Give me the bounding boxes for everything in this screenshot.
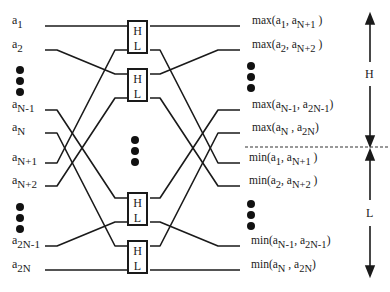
output-label-min-N-1: min(aN-1, a2N-1) <box>251 234 330 246</box>
low-half-label: L <box>366 207 373 219</box>
wire-out-min2 <box>150 98 240 186</box>
output-label-min-N: min(aN , a2N) <box>251 258 316 270</box>
input-label-a1: a1 <box>12 14 23 26</box>
input-label-aN: aN <box>12 121 25 133</box>
wire-out-maxN-1 <box>150 110 240 198</box>
ellipsis-dot <box>131 136 139 144</box>
ellipsis-dot <box>247 62 255 70</box>
ellipsis-dot <box>247 211 255 219</box>
ellipsis-dot <box>247 200 255 208</box>
wire-a2 <box>45 50 127 74</box>
ellipsis-dot <box>16 225 24 233</box>
output-label-max-1: max(a1, aN+1 ) <box>252 14 322 26</box>
ellipsis-dot <box>16 88 24 96</box>
ellipsis-dot <box>131 147 139 155</box>
output-label-min-2: min(a2, aN+2 ) <box>249 174 317 186</box>
input-label-aN+1: aN+1 <box>12 151 37 163</box>
input-label-a2: a2 <box>12 38 23 50</box>
wire-aN <box>45 133 127 246</box>
output-label-max-2: max(a2, aN+2 ) <box>252 38 322 50</box>
comparator-box-4: HL <box>127 240 148 274</box>
high-half-label: H <box>365 68 374 80</box>
comparator-box-1: HL <box>127 20 148 54</box>
comparator-box-2: HL <box>127 68 148 102</box>
ellipsis-dot <box>247 73 255 81</box>
ellipsis-dot <box>16 77 24 85</box>
arrow-up-icon <box>366 150 374 160</box>
wire-a2N-1 <box>45 222 127 246</box>
ellipsis-dot <box>247 222 255 230</box>
ellipsis-dot <box>131 158 139 166</box>
input-label-aN+2: aN+2 <box>12 174 37 186</box>
ellipsis-dot <box>247 84 255 92</box>
input-label-a2N-1: a2N-1 <box>12 234 40 246</box>
arrow-down-icon <box>366 266 374 276</box>
network-wiring <box>0 0 390 292</box>
ellipsis-dot <box>16 214 24 222</box>
ellipsis-dot <box>16 203 24 211</box>
input-label-aN-1: aN-1 <box>12 98 34 110</box>
output-label-max-N-1: max(aN-1, a2N-1) <box>252 98 333 110</box>
wire-out-minN-1 <box>150 222 240 246</box>
output-label-max-N: max(aN , a2N) <box>252 121 319 133</box>
comparator-box-3: HL <box>127 192 148 226</box>
arrow-down-icon <box>366 136 374 146</box>
wire-aN+1 <box>45 50 127 163</box>
wire-out-max2 <box>150 50 240 74</box>
input-label-a2N: a2N <box>12 258 31 270</box>
arrow-up-icon <box>366 14 374 24</box>
ellipsis-dot <box>16 66 24 74</box>
output-label-min-1: min(a1, aN+1 ) <box>249 151 317 163</box>
